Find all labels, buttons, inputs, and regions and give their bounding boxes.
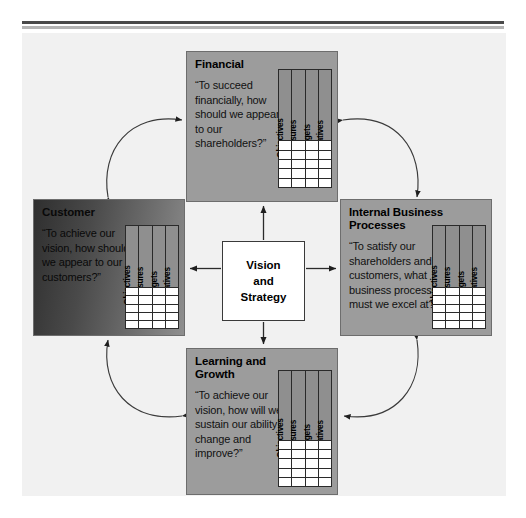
table-cell[interactable]	[460, 305, 473, 312]
table-cell[interactable]	[139, 296, 152, 303]
measurement-table-financial[interactable]: Objectives Measures Targets Initiatives	[278, 69, 332, 188]
table-cell[interactable]	[292, 469, 305, 477]
table-cell[interactable]	[126, 313, 139, 320]
table-row[interactable]	[433, 304, 485, 312]
table-cell[interactable]	[433, 288, 446, 295]
table-cell[interactable]	[319, 441, 331, 449]
table-row[interactable]	[279, 150, 331, 159]
table-cell[interactable]	[306, 169, 319, 177]
table-body[interactable]	[126, 287, 178, 328]
table-cell[interactable]	[319, 141, 331, 149]
table-cell[interactable]	[460, 321, 473, 328]
table-cell[interactable]	[166, 313, 178, 320]
table-cell[interactable]	[433, 305, 446, 312]
table-cell[interactable]	[139, 313, 152, 320]
table-cell[interactable]	[292, 151, 305, 159]
table-row[interactable]	[279, 178, 331, 187]
table-body[interactable]	[433, 287, 485, 328]
table-row[interactable]	[279, 168, 331, 177]
table-row[interactable]	[433, 295, 485, 303]
table-cell[interactable]	[473, 321, 485, 328]
table-cell[interactable]	[319, 450, 331, 458]
table-cell[interactable]	[166, 321, 178, 328]
table-cell[interactable]	[139, 321, 152, 328]
table-cell[interactable]	[433, 296, 446, 303]
table-cell[interactable]	[166, 288, 178, 295]
table-cell[interactable]	[292, 459, 305, 467]
table-cell[interactable]	[279, 450, 292, 458]
table-cell[interactable]	[126, 296, 139, 303]
table-row[interactable]	[126, 295, 178, 303]
measurement-table-internal[interactable]: Objectives Measures Targets Initiatives	[432, 225, 486, 329]
table-cell[interactable]	[126, 305, 139, 312]
table-cell[interactable]	[153, 288, 166, 295]
table-cell[interactable]	[306, 151, 319, 159]
table-cell[interactable]	[460, 313, 473, 320]
table-cell[interactable]	[166, 305, 178, 312]
table-cell[interactable]	[306, 469, 319, 477]
table-cell[interactable]	[473, 305, 485, 312]
table-row[interactable]	[126, 287, 178, 295]
table-cell[interactable]	[306, 141, 319, 149]
table-cell[interactable]	[292, 450, 305, 458]
table-cell[interactable]	[319, 169, 331, 177]
vision-and-strategy-box[interactable]: Vision and Strategy	[222, 241, 305, 321]
table-cell[interactable]	[446, 321, 459, 328]
table-cell[interactable]	[306, 441, 319, 449]
table-row[interactable]	[126, 312, 178, 320]
table-cell[interactable]	[306, 450, 319, 458]
table-cell[interactable]	[126, 321, 139, 328]
table-cell[interactable]	[292, 179, 305, 187]
table-cell[interactable]	[126, 288, 139, 295]
table-body[interactable]	[279, 440, 331, 486]
table-cell[interactable]	[319, 478, 331, 486]
table-cell[interactable]	[460, 296, 473, 303]
table-cell[interactable]	[460, 288, 473, 295]
table-cell[interactable]	[292, 478, 305, 486]
table-row[interactable]	[433, 320, 485, 328]
table-cell[interactable]	[446, 288, 459, 295]
table-cell[interactable]	[319, 469, 331, 477]
table-cell[interactable]	[306, 160, 319, 168]
table-cell[interactable]	[446, 305, 459, 312]
table-cell[interactable]	[433, 313, 446, 320]
table-row[interactable]	[433, 287, 485, 295]
table-cell[interactable]	[279, 160, 292, 168]
table-row[interactable]	[279, 477, 331, 486]
table-cell[interactable]	[166, 296, 178, 303]
table-cell[interactable]	[319, 459, 331, 467]
table-row[interactable]	[279, 458, 331, 467]
table-cell[interactable]	[279, 169, 292, 177]
table-cell[interactable]	[319, 151, 331, 159]
table-row[interactable]	[279, 140, 331, 149]
table-row[interactable]	[279, 468, 331, 477]
table-row[interactable]	[126, 320, 178, 328]
measurement-table-learning[interactable]: Objectives Measures Targets Initiatives	[278, 370, 332, 487]
table-cell[interactable]	[292, 141, 305, 149]
table-cell[interactable]	[292, 441, 305, 449]
table-cell[interactable]	[153, 296, 166, 303]
table-cell[interactable]	[279, 478, 292, 486]
table-cell[interactable]	[279, 441, 292, 449]
table-body[interactable]	[279, 140, 331, 187]
table-cell[interactable]	[306, 179, 319, 187]
table-cell[interactable]	[433, 321, 446, 328]
table-cell[interactable]	[292, 160, 305, 168]
table-cell[interactable]	[319, 160, 331, 168]
table-cell[interactable]	[279, 141, 292, 149]
table-cell[interactable]	[473, 288, 485, 295]
table-cell[interactable]	[139, 305, 152, 312]
table-cell[interactable]	[279, 469, 292, 477]
table-cell[interactable]	[446, 296, 459, 303]
table-row[interactable]	[279, 449, 331, 458]
table-cell[interactable]	[153, 305, 166, 312]
measurement-table-customer[interactable]: Objectives Measures Targets Initiatives	[125, 225, 179, 329]
table-cell[interactable]	[139, 288, 152, 295]
table-cell[interactable]	[279, 459, 292, 467]
table-cell[interactable]	[306, 459, 319, 467]
table-cell[interactable]	[473, 296, 485, 303]
table-row[interactable]	[279, 159, 331, 168]
table-row[interactable]	[433, 312, 485, 320]
table-cell[interactable]	[473, 313, 485, 320]
table-cell[interactable]	[279, 179, 292, 187]
